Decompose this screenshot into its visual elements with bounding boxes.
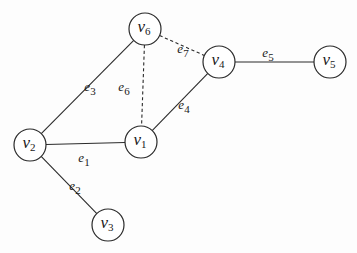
node-v1: v1: [125, 126, 157, 158]
edge-label-e4: e4: [178, 97, 190, 115]
graph-diagram: e1e2e3e4e5e6e7v1v2v3v4v5v6: [0, 0, 357, 253]
node-v3: v3: [92, 209, 124, 241]
edge-label-e6: e6: [118, 79, 130, 97]
edges: e1e2e3e4e5e6e7: [41, 36, 314, 214]
edge-label-e5: e5: [262, 45, 274, 63]
node-v6: v6: [129, 13, 161, 45]
node-v4: v4: [203, 46, 235, 78]
edge-label-e3: e3: [84, 79, 96, 97]
edge-label-e7: e7: [177, 41, 189, 59]
edge-label-e1: e1: [78, 150, 89, 168]
node-v2: v2: [14, 129, 46, 161]
edge-label-e2: e2: [69, 178, 80, 196]
edge-e1: [46, 142, 125, 144]
edge-e6: [142, 45, 145, 126]
graph-canvas: e1e2e3e4e5e6e7v1v2v3v4v5v6: [0, 0, 357, 253]
node-v5: v5: [314, 46, 346, 78]
